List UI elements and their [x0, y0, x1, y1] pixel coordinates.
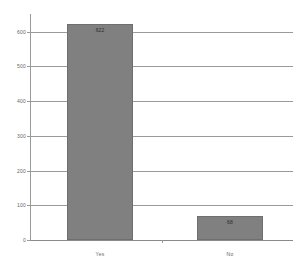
x-axis-label-no: No: [227, 252, 234, 257]
bar-value-yes: 622: [68, 28, 132, 33]
y-tick-mark-300: [27, 136, 31, 137]
x-axis-label-yes: Yes: [96, 252, 105, 257]
y-tick-label-0: 0: [23, 238, 26, 243]
y-tick-mark-600: [27, 32, 31, 33]
y-tick-label-300: 300: [17, 134, 26, 139]
y-tick-mark-400: [27, 101, 31, 102]
bar-yes[interactable]: 622: [67, 24, 133, 240]
plot-area: 600 500 400 300 200 100 0: [31, 14, 293, 240]
y-tick-mark-0: [27, 240, 31, 241]
y-tick-mark-200: [27, 171, 31, 172]
y-tick-mark-500: [27, 66, 31, 67]
y-tick-label-200: 200: [17, 169, 26, 174]
y-tick-label-400: 400: [17, 99, 26, 104]
y-tick-label-600: 600: [17, 30, 26, 35]
bar-value-no: 68: [198, 220, 262, 225]
bar-no[interactable]: 68: [197, 216, 263, 240]
bar-chart: 600 500 400 300 200 100 0: [0, 0, 308, 268]
y-tick-mark-100: [27, 205, 31, 206]
x-tick-mark-center: [162, 240, 163, 243]
y-tick-label-100: 100: [17, 203, 26, 208]
y-tick-label-500: 500: [17, 64, 26, 69]
